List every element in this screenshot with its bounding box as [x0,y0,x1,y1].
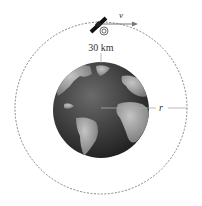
arrowhead-icon [132,22,138,27]
orbit-diagram: r 30 km v [0,0,202,206]
radius-label: r [159,102,163,113]
altitude-label: 30 km [88,42,114,53]
satellite-icon [91,18,108,35]
velocity-label: v [119,10,123,20]
earth [53,62,150,158]
